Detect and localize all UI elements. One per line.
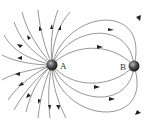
charge-b-sphere xyxy=(129,61,140,72)
field-line-diagram: A B xyxy=(0,0,159,132)
charge-a-sphere xyxy=(47,60,58,71)
charge-b-label: B xyxy=(120,62,126,72)
charge-a-label: A xyxy=(60,61,67,71)
charge-a: A xyxy=(47,60,68,72)
